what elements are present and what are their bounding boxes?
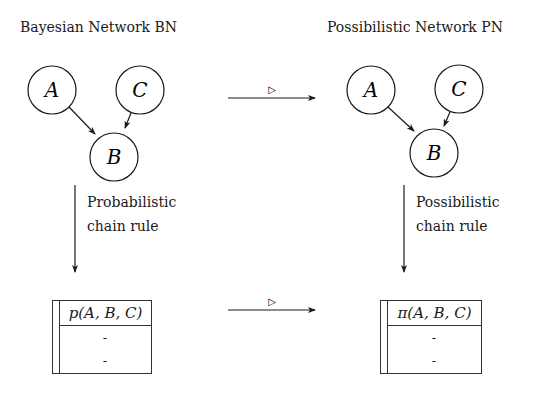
table-header: π(A, B, C) (387, 301, 481, 326)
label-line-2: chain rule (416, 214, 500, 238)
table-row: - (387, 349, 481, 373)
bayesian-network-title: Bayesian Network BN (20, 19, 177, 35)
label-line-2: chain rule (87, 214, 176, 238)
probabilistic-chain-rule-label: Probabilistic chain rule (87, 190, 176, 238)
edge-a-to-b (388, 107, 414, 131)
edge-c-to-b (125, 113, 131, 128)
bayesian-network-graph: A C B (28, 66, 164, 272)
joint-possibility-table: π(A, B, C) - - (380, 300, 482, 374)
joint-probability-table: p(A, B, C) - - (52, 300, 152, 374)
node-a-label: A (43, 78, 59, 102)
label-line-1: Possibilistic (416, 190, 500, 214)
table-row: - (59, 349, 151, 373)
node-a-label: A (362, 78, 378, 102)
node-b-label: B (106, 145, 122, 169)
table-header: p(A, B, C) (59, 301, 151, 326)
node-b-label: B (426, 141, 442, 165)
possibilistic-network-title: Possibilistic Network PN (327, 19, 503, 35)
node-c-label: C (451, 77, 466, 101)
table-row: - (387, 326, 481, 350)
label-line-1: Probabilistic (87, 190, 176, 214)
edge-c-to-b (444, 112, 450, 126)
network-mapping-triangle-icon: ▷ (268, 84, 276, 95)
edge-a-to-b (69, 107, 95, 134)
possibilistic-chain-rule-label: Possibilistic chain rule (416, 190, 500, 238)
possibilistic-network-graph: A C B (347, 65, 483, 272)
table-row: - (59, 326, 151, 350)
distribution-mapping-triangle-icon: ▷ (268, 296, 276, 307)
node-c-label: C (132, 78, 147, 102)
